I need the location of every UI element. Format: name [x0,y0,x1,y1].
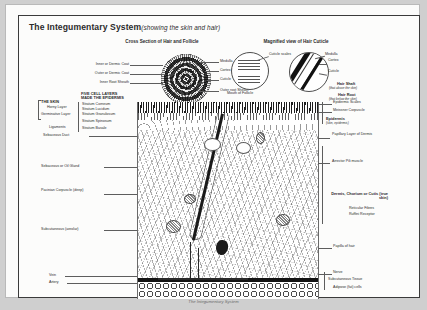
label-cortex-mag: Cortex [328,59,339,63]
diagram-page: The Integumentary System(showing the ski… [0,0,427,310]
label-pacinian-corpuscle: Pacinian Corpuscle (deep) [41,189,83,193]
leader-line [318,138,330,139]
diagram-frame: The Integumentary System(showing the ski… [18,15,420,298]
epidermis-layer [138,102,318,113]
xsec-label-cuticle: Cuticle [220,78,231,82]
leader-line [104,194,137,195]
leader-line [104,230,137,231]
key-subheading-epidermis: MADE THE EPIDERMIS [81,96,124,100]
sweat-gland [166,220,181,233]
leader-line [319,64,327,65]
label-arrector-pili: Arrector Pili muscle [332,160,363,164]
leader-line [199,91,219,92]
hair-follicle-group [220,114,234,264]
key-item-horny-layer: Horny Layer [47,106,67,110]
pacinian-corpuscle [184,194,196,204]
sweat-gland [276,214,290,226]
key-bracket [38,100,39,120]
page-subtitle: (showing the skin and hair) [141,24,220,31]
key-heading-the-skin: THE SKIN [41,100,59,104]
paper-sheet: The Integumentary System(showing the ski… [6,5,419,297]
label-medulla-mag: Medulla [325,53,338,57]
hair-bulb [215,239,229,256]
leader-line [318,112,332,113]
key-bracket [78,102,79,132]
page-title: The Integumentary System(showing the ski… [29,23,220,32]
leader-line [130,83,163,84]
label-nerve: Nerve [333,271,343,275]
sebaceous-gland [236,142,251,154]
key-bracket [38,100,41,101]
blood-vessel-horizontal [158,278,194,280]
leader-line [207,80,219,81]
heading-magnified: Magnified view of Hair Cuticle [231,40,361,45]
leader-line [65,276,137,277]
leader-line [318,163,330,164]
xsec-label-inner-dermic-coat: Inner or Dermic Coat [51,63,129,67]
label-ruffini-receptor: Ruffini Receptor [349,213,375,217]
xsec-label-medulla: Medulla [220,60,233,64]
blood-vessel-artery [198,248,199,280]
label-cuticle-mag: Cuticle [328,70,339,74]
label-reticular-fibres: Reticular Fibres [349,207,374,211]
leader-line [318,274,332,275]
bracket-dermis [322,146,323,224]
label-epidermis-note: (skin, epidermis) [326,122,349,125]
label-meissner-corpuscle: Meissner Corpuscle [333,109,365,113]
skin-cross-section-illustration [137,102,319,299]
label-vein: Vein [49,274,56,278]
blood-vessel-horizontal [190,278,248,280]
sebaceous-gland [204,138,221,151]
label-dermis-chorium-cutis: Dermis, Chorium or Cutis (true skin) [326,192,388,200]
label-artery: Artery [49,281,59,285]
label-papilla-of-hair: Papilla of hair [333,245,355,249]
leader-line [130,65,163,66]
leader-line [318,248,332,249]
hair-strand-circle [289,52,329,92]
meissner-corpuscle [256,132,265,144]
label-papillary-layer: Papillary Layer of Dermis [332,133,390,137]
key-layer-stratum-granulosum: Stratum Granulosum [82,113,115,117]
xsec-label-outer-dermic-coat: Outer or Dermic Coat [51,72,129,76]
leader-line [205,71,219,72]
xsec-label-inner-root-sheath: Inner Root Sheath [51,81,129,85]
blood-vessel-vein [190,242,191,280]
page-caption: The Integumentary System [0,299,427,304]
key-item-germinative-layer: Germinative Layer [41,113,70,117]
leader-line [318,104,332,105]
key-layer-stratum-basale: Stratum Basale [82,127,107,131]
key-layer-stratum-spinosum: Stratum Spinosum [82,120,112,124]
leader-line [201,62,219,63]
leader-line [89,136,137,137]
key-bracket [38,119,41,120]
label-mouth-of-follicle: Mouth of Follicle [227,92,253,96]
label-epidermic-scales: Epidermic Scales [333,101,361,105]
leader-line [104,167,137,168]
adipose-tissue-layer [138,282,318,299]
label-sebaceous-duct: Sebaceous Duct [43,134,69,138]
label-subcutaneous-areolar: Subcutaneous (areolar) [41,228,79,232]
heading-cross-section: Cross Section of Hair and Follicle [97,40,227,45]
leader-line [130,74,162,75]
label-cuticle-scales: Cuticle scales [269,53,291,57]
leader-line [67,283,137,284]
label-hair-shaft-note: (that above the skin) [329,87,357,90]
bracket-epidermis [322,102,323,124]
label-adipose-cells: Adipose (fat) cells [333,286,362,290]
label-ligaments: Ligaments [49,126,66,130]
bracket-subcutaneous [324,272,325,290]
label-subcutaneous-tissue: Subcutaneous Tissue [328,278,362,282]
cuticle-scale-pattern [238,59,260,83]
label-sebaceous-gland: Sebaceous or Oil Gland [41,165,79,169]
xsec-label-cortex: Cortex [220,69,231,73]
